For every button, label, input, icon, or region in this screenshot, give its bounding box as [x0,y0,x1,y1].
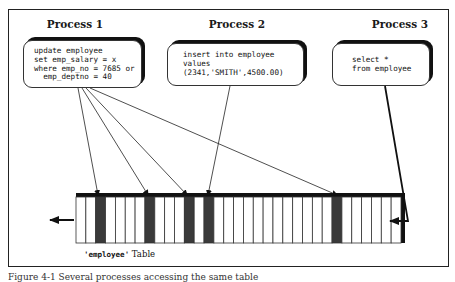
arrow-p1-row26 [90,88,337,195]
table-row [174,197,184,243]
arrow-p1-row11 [86,88,187,195]
table-row [106,197,116,243]
table-row [125,197,135,243]
table-row [322,197,332,243]
table-row-locked [184,197,194,243]
table-row [224,197,234,243]
table-row [165,197,175,243]
table-row [352,197,362,243]
table-row-locked [332,197,342,243]
table-label: 'employee' Table [84,249,155,259]
table-row [342,197,352,243]
table-row [243,197,253,243]
table-name: 'employee' [84,250,129,259]
table-row [273,197,283,243]
table-row [194,197,204,243]
table-row [312,197,322,243]
table-row-locked [96,197,106,243]
table-row [303,197,313,243]
table-top-bar [76,193,403,197]
arrow-p1-row2 [78,88,98,195]
table-row [76,197,86,243]
table-row [155,197,165,243]
table-row [391,197,401,243]
table-row [115,197,125,243]
table-row [214,197,224,243]
table-row [381,197,391,243]
table-row [283,197,293,243]
table-label-suffix: Table [129,249,155,259]
table-row [362,197,372,243]
figure-caption: Figure 4-1 Several processes accessing t… [8,272,258,282]
table-row [253,197,263,243]
process-1-arrows [78,88,337,195]
table-row [234,197,244,243]
table-row [135,197,145,243]
table-row [293,197,303,243]
table-rows [76,197,401,243]
arrow-p1-row7 [82,88,148,195]
table-row [86,197,96,243]
table-row-locked [204,197,214,243]
table-row-locked [145,197,155,243]
table-row [263,197,273,243]
table-row [371,197,381,243]
